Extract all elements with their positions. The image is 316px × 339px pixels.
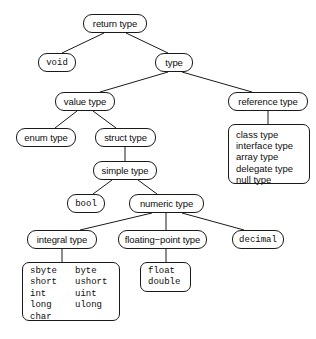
node-return-type-label: return type [93, 18, 137, 29]
list-item: null type [236, 174, 303, 185]
integral-right-3: ulong [75, 300, 102, 311]
node-bool[interactable]: bool [67, 194, 105, 213]
integral-left-0: sbyte [30, 266, 75, 277]
integral-left-3: long [30, 300, 75, 311]
list-item: array type [236, 151, 303, 162]
node-value-type[interactable]: value type [55, 92, 115, 111]
edge-numeric-type-decimal [182, 213, 244, 230]
node-decimal-label: decimal [239, 235, 277, 245]
list-item: interface type [236, 140, 303, 151]
node-value-type-label: value type [64, 96, 106, 107]
list-item: intuint [30, 289, 113, 300]
list-item: sbytebyte [30, 266, 113, 277]
integral-right-2: uint [75, 289, 97, 300]
integral-left-2: int [30, 289, 75, 300]
integral-right-1: ushort [75, 277, 107, 288]
node-decimal[interactable]: decimal [232, 230, 284, 249]
edge-value-type-enum-type [55, 111, 77, 128]
node-type[interactable]: type [155, 53, 193, 72]
edge-numeric-type-integral-type [80, 213, 152, 230]
list-item: char [30, 312, 113, 323]
edge-simple-type-bool [93, 180, 112, 194]
node-simple-type[interactable]: simple type [93, 161, 157, 180]
node-reference-type-list[interactable]: class type interface type array type del… [228, 124, 310, 184]
node-integral-type-list[interactable]: sbytebyte shortushort intuint longulong … [22, 262, 120, 321]
node-struct-type-label: struct type [104, 132, 147, 143]
node-reference-type[interactable]: reference type [228, 92, 308, 111]
node-floating-point-type-label: floating−point type [125, 234, 200, 245]
edge-type-value-type [100, 72, 168, 92]
node-bool-label: bool [75, 199, 97, 209]
node-simple-type-label: simple type [102, 165, 149, 176]
node-enum-type-label: enum type [24, 132, 67, 143]
node-enum-type[interactable]: enum type [16, 128, 76, 147]
node-type-label: type [165, 57, 183, 68]
list-item: delegate type [236, 163, 303, 174]
list-item: longulong [30, 300, 113, 311]
node-numeric-type[interactable]: numeric type [129, 194, 204, 213]
node-return-type[interactable]: return type [83, 14, 147, 33]
integral-left-1: short [30, 277, 75, 288]
node-floating-point-list[interactable]: float double [140, 262, 191, 292]
list-item: shortushort [30, 277, 113, 288]
node-struct-type[interactable]: struct type [95, 128, 156, 147]
list-item: float [148, 266, 184, 277]
list-item: class type [236, 129, 303, 140]
edge-return-type-type [126, 33, 168, 53]
node-integral-type[interactable]: integral type [27, 230, 97, 249]
edge-type-reference-type [182, 72, 252, 92]
edge-simple-type-numeric-type [138, 180, 157, 194]
node-void-label: void [46, 58, 68, 68]
node-void[interactable]: void [38, 53, 76, 72]
integral-left-4: char [30, 312, 75, 323]
node-floating-point-type[interactable]: floating−point type [118, 230, 207, 249]
edge-return-type-void [62, 33, 104, 53]
integral-right-0: byte [75, 266, 97, 277]
edge-value-type-struct-type [93, 111, 116, 128]
type-hierarchy-diagram: return type void type value type referen… [0, 0, 316, 339]
node-numeric-type-label: numeric type [140, 198, 193, 209]
node-reference-type-label: reference type [238, 96, 297, 107]
list-item: double [148, 277, 184, 288]
node-integral-type-label: integral type [37, 234, 87, 245]
